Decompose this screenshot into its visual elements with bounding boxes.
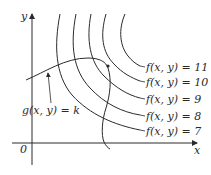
leader-8 [140, 115, 145, 116]
level-label-7: f(x, y) = 7 [145, 125, 201, 138]
leader-11 [140, 66, 145, 67]
leader-7 [140, 130, 145, 131]
origin-label: 0 [20, 143, 27, 156]
constraint-label: g(x, y) = k [22, 104, 80, 117]
level-label-11: f(x, y) = 11 [145, 61, 208, 74]
constraint-label-arrow [48, 73, 51, 103]
level-label-10: f(x, y) = 10 [145, 76, 208, 89]
x-axis-label: x [194, 144, 201, 157]
leader-9 [140, 98, 145, 99]
tangent-point [106, 64, 109, 67]
y-axis-label: y [20, 10, 28, 23]
leader-10 [140, 81, 145, 82]
level-label-8: f(x, y) = 8 [145, 110, 201, 123]
level-curve-11 [121, 14, 140, 66]
lagrange-diagram: y x 0 g(x, y) = k f(x, y) = 11 f(x, y) =… [0, 0, 211, 175]
level-label-9: f(x, y) = 9 [145, 93, 201, 106]
level-curve-9 [89, 14, 140, 98]
